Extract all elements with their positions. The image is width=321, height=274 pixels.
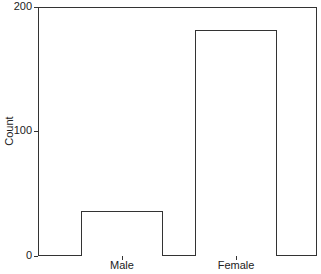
- bar-male: [81, 211, 163, 256]
- y-tick-0: 0: [2, 249, 32, 261]
- y-tick-mark: [34, 7, 38, 8]
- x-label-female: Female: [195, 259, 277, 271]
- y-tick-mark: [34, 131, 38, 132]
- y-tick-100: 100: [2, 124, 32, 136]
- y-tick-mark: [34, 256, 38, 257]
- x-label-male: Male: [81, 259, 163, 271]
- y-tick-200: 200: [2, 0, 32, 12]
- bar-female: [195, 30, 277, 256]
